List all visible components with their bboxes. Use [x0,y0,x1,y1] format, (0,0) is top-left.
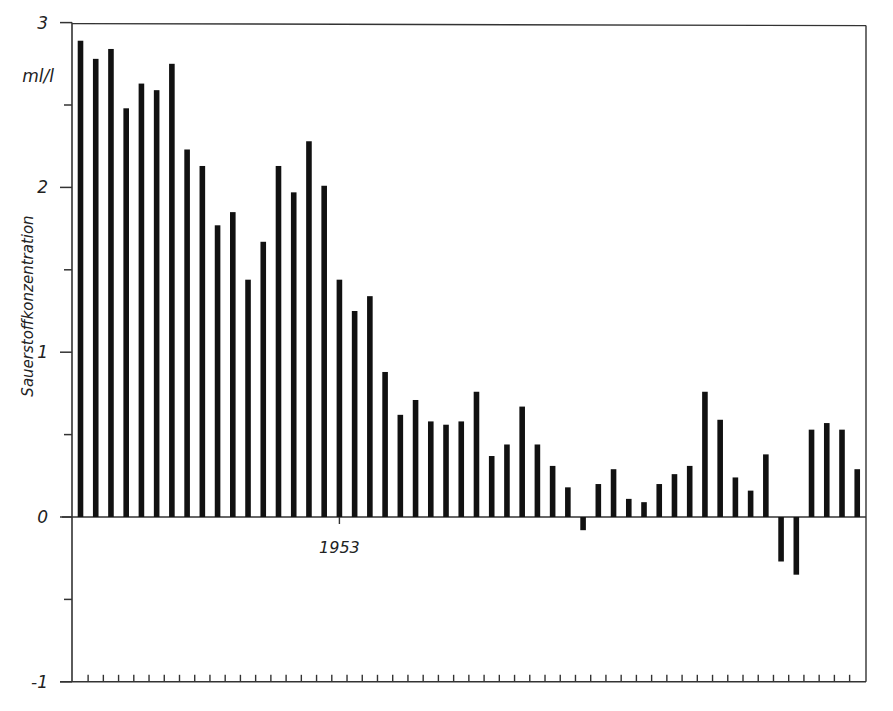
bar [154,90,160,517]
bar [413,400,419,517]
bar [276,166,282,517]
bar [717,420,723,517]
bar [565,487,571,517]
plot-frame [60,23,866,682]
bar [611,469,617,517]
bar [245,280,251,517]
bar [184,149,190,517]
bar [626,499,632,517]
bar [489,456,495,517]
chart-canvas: -10123 ml/l 1953 Sauerstoffkonzentration [0,0,893,711]
bar [748,491,754,517]
bar [169,64,175,517]
bar [656,484,662,517]
bar-chart: -10123 ml/l 1953 Sauerstoffkonzentration [0,0,893,711]
bar [763,454,769,517]
bar [321,186,327,517]
bar [641,502,647,517]
bar [839,430,845,517]
bar [352,311,358,517]
bar [215,225,221,517]
bar [474,392,480,517]
y-tick-label: 0 [37,507,48,527]
bar [306,141,312,517]
y-tick-label: -1 [31,672,48,692]
bar [123,108,129,517]
bar [794,517,800,575]
bar [824,423,830,517]
bar [733,477,739,517]
y-tick-label: 3 [37,13,48,33]
bar [108,49,114,517]
bar [443,425,449,517]
y-tick-label: 2 [37,177,48,197]
y-axis: -10123 [31,13,72,692]
bar [367,296,373,517]
bar [854,469,860,517]
bar [535,444,541,517]
bar [702,392,708,517]
bar [398,415,404,517]
bar [78,41,84,517]
bar [337,280,343,517]
y-axis-title: Sauerstoffkonzentration [19,215,37,396]
bar [596,484,602,517]
bar [519,407,525,517]
top-border [72,24,866,26]
bar [230,212,236,517]
bar [200,166,206,517]
bar [139,84,145,517]
x-axis-ticks [88,517,850,682]
bar [291,192,297,517]
y-tick-label: 1 [37,342,48,362]
bar [550,466,556,517]
bar [93,59,99,517]
bar [382,372,388,517]
unit-label: ml/l [22,66,54,86]
bar [580,517,586,530]
bar [672,474,678,517]
bar [428,421,434,517]
bar [504,444,510,517]
bar-series [78,41,860,575]
bar [778,517,784,561]
x-annotation-label: 1953 [319,538,360,557]
bar [458,421,464,517]
bar [260,242,266,517]
bar [687,466,693,517]
bar [809,430,815,517]
